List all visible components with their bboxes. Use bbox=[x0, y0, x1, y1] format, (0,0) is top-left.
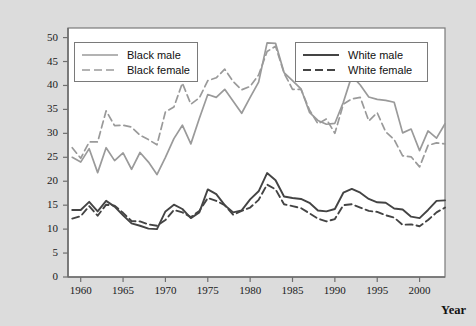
y-tick-label: 40 bbox=[34, 78, 58, 90]
legend-label-white-male: White male bbox=[348, 49, 403, 61]
legend-item-white-female: White female bbox=[302, 62, 420, 77]
legend-swatch-solid-dark bbox=[302, 50, 340, 60]
legend-label-white-female: White female bbox=[348, 64, 412, 76]
y-tick-label: 5 bbox=[34, 246, 58, 258]
y-tick-label: 15 bbox=[34, 198, 58, 210]
x-tick-label: 1965 bbox=[103, 284, 143, 296]
figure-container: Unemployment rate (percent) Year 0510152… bbox=[0, 0, 476, 326]
y-tick-label: 35 bbox=[34, 102, 58, 114]
legend-swatch-dashed-gray bbox=[81, 65, 119, 75]
x-tick-label: 2000 bbox=[400, 284, 440, 296]
y-tick-label: 25 bbox=[34, 150, 58, 162]
y-tick-label: 45 bbox=[34, 55, 58, 67]
legend-item-black-female: Black female bbox=[81, 62, 190, 77]
y-tick-label: 30 bbox=[34, 126, 58, 138]
y-tick-label: 20 bbox=[34, 174, 58, 186]
y-tick-label: 0 bbox=[34, 270, 58, 282]
x-tick-label: 1995 bbox=[357, 284, 397, 296]
x-tick-label: 1975 bbox=[188, 284, 228, 296]
legend-item-white-male: White male bbox=[302, 47, 420, 62]
legend-black-series: Black male Black female bbox=[74, 42, 198, 82]
x-axis-title: Year bbox=[441, 303, 466, 318]
y-tick-label: 50 bbox=[34, 31, 58, 43]
x-tick-label: 1970 bbox=[145, 284, 185, 296]
legend-label-black-female: Black female bbox=[127, 64, 190, 76]
legend-white-series: White male White female bbox=[295, 42, 428, 82]
y-axis-title: Unemployment rate (percent) bbox=[0, 0, 68, 18]
legend-item-black-male: Black male bbox=[81, 47, 190, 62]
y-tick-label: 10 bbox=[34, 222, 58, 234]
y-axis-title-line2: (percent) bbox=[40, 0, 54, 18]
y-axis-title-line1: Unemployment rate bbox=[12, 0, 26, 18]
legend-label-black-male: Black male bbox=[127, 49, 181, 61]
x-tick-label: 1990 bbox=[315, 284, 355, 296]
legend-swatch-solid-gray bbox=[81, 50, 119, 60]
x-tick-label: 1985 bbox=[273, 284, 313, 296]
x-tick-label: 1960 bbox=[61, 284, 101, 296]
legend-swatch-dashed-dark bbox=[302, 65, 340, 75]
x-tick-label: 1980 bbox=[230, 284, 270, 296]
